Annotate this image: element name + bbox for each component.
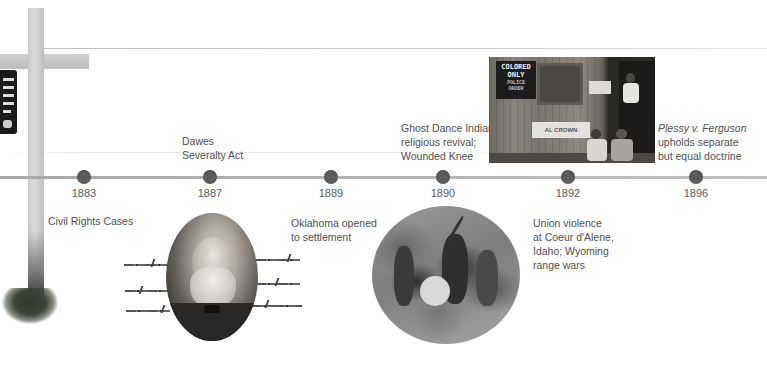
timeline-dot-1896[interactable] (689, 170, 703, 184)
event-label-1887: Dawes Severalty Act (182, 134, 243, 162)
event-text: range wars (533, 258, 614, 272)
ghost-dance-image (372, 206, 520, 344)
segregation-photo: COLORED ONLY POLICE ORDER AL CROWN (489, 57, 655, 163)
timeline-dot-1892[interactable] (561, 170, 575, 184)
event-text: at Coeur d'Alene, (533, 230, 614, 244)
barbed-wire (124, 264, 168, 266)
person (591, 129, 601, 139)
person (587, 139, 607, 161)
event-text: religious revival; (401, 135, 494, 149)
case-name: Plessy v. Ferguson (658, 122, 747, 134)
person (616, 129, 627, 139)
person (623, 83, 639, 103)
year-label: 1896 (671, 187, 721, 199)
event-text: upholds separate (658, 135, 747, 149)
year-label: 1892 (543, 187, 593, 199)
event-label-1896: Plessy v. Ferguson upholds separate but … (658, 121, 747, 163)
fence-post-crossbar (0, 54, 89, 69)
event-text: Dawes (182, 134, 243, 148)
event-text: Union violence (533, 216, 614, 230)
barbed-wire (252, 305, 302, 307)
portrait-image (166, 213, 258, 341)
event-label-1892: Union violence at Coeur d'Alene, Idaho; … (533, 216, 614, 272)
year-label: 1889 (306, 187, 356, 199)
window (537, 63, 583, 105)
portrait-bowtie (204, 305, 220, 313)
event-label-1890: Ghost Dance Indian religious revival; Wo… (401, 121, 494, 163)
colored-only-sign: COLORED ONLY POLICE ORDER (496, 61, 536, 99)
event-text: to settlement (291, 230, 377, 244)
banner-sign: AL CROWN (532, 122, 590, 138)
top-rule (28, 48, 767, 49)
year-label: 1883 (59, 187, 109, 199)
year-label: 1890 (418, 187, 468, 199)
timeline-dot-1883[interactable] (77, 170, 91, 184)
event-text: Wounded Knee (401, 149, 494, 163)
timeline-dot-1887[interactable] (203, 170, 217, 184)
timeline-axis (0, 176, 767, 179)
event-text: Severalty Act (182, 148, 243, 162)
fence-sign-icon (0, 70, 17, 134)
timeline-dot-1889[interactable] (324, 170, 338, 184)
event-label-1883: Civil Rights Cases (48, 214, 133, 228)
person (626, 73, 635, 83)
small-sign (589, 81, 611, 94)
event-text: Ghost Dance Indian (401, 121, 494, 135)
year-label: 1887 (185, 187, 235, 199)
sign-text: COLORED (496, 63, 536, 71)
sign-text: ORDER (496, 85, 536, 91)
person (611, 139, 633, 161)
grass-tuft (2, 288, 58, 324)
barb-icon (139, 286, 150, 294)
event-text: Oklahoma opened (291, 216, 377, 230)
event-text: but equal doctrine (658, 149, 747, 163)
sign-text: ONLY (496, 71, 536, 79)
event-text: Idaho; Wyoming (533, 244, 614, 258)
event-text: Civil Rights Cases (48, 214, 133, 228)
event-label-1889: Oklahoma opened to settlement (291, 216, 377, 244)
timeline-dot-1890[interactable] (436, 170, 450, 184)
